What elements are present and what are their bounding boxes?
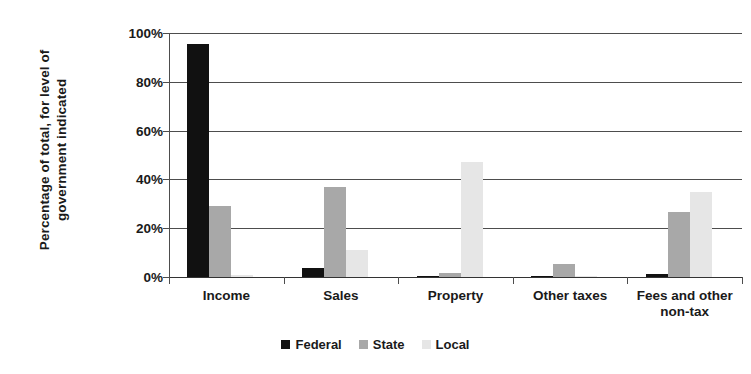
bar-state-0[interactable] [209,206,231,277]
bar-chart: Percentage of total, for level of govern… [0,0,751,374]
bar-state-4[interactable] [668,212,690,277]
legend-item-federal[interactable]: Federal [281,337,341,352]
y-axis-tick-mark [163,228,170,229]
bar-state-1[interactable] [324,187,346,277]
bar-local-0[interactable] [231,275,253,277]
bar-federal-1[interactable] [302,268,324,277]
y-axis-tick-label: 60% [105,123,163,138]
legend-label: Local [436,337,470,352]
legend-label: Federal [295,337,341,352]
y-axis-tick-label: 0% [105,270,163,285]
x-axis-category-4: Fees and othernon-tax [627,288,742,320]
plot-area [169,33,742,277]
x-axis-category-label: Income [203,288,250,303]
bar-federal-2[interactable] [417,276,439,277]
y-axis-title-line1: Percentage of total, for level of [37,50,52,251]
legend-item-local[interactable]: Local [422,337,470,352]
x-axis-category-2: Property [398,288,513,304]
x-axis-tick-mark [169,277,170,284]
bar-federal-3[interactable] [531,276,553,277]
x-axis-category-label-line2: non-tax [660,304,709,319]
bar-group [187,33,253,277]
y-axis-tick-mark [163,33,170,34]
x-axis-category-3: Other taxes [513,288,628,304]
legend-swatch-icon [422,340,431,349]
x-axis-tick-mark [398,277,399,284]
bar-state-2[interactable] [439,273,461,277]
y-axis-tick-mark [163,82,170,83]
x-axis-category-label: Other taxes [533,288,607,303]
chart-legend: FederalStateLocal [0,337,751,352]
bar-group [417,33,483,277]
x-axis-tick-mark [513,277,514,284]
bar-federal-0[interactable] [187,44,209,277]
bar-group [302,33,368,277]
legend-swatch-icon [359,340,368,349]
y-axis-tick-labels: 0%20%40%60%80%100% [103,0,163,374]
y-axis-tick-label: 80% [105,74,163,89]
legend-label: State [373,337,405,352]
x-axis-category-1: Sales [284,288,399,304]
x-axis-category-label: Fees and other [637,288,733,303]
legend-swatch-icon [281,340,290,349]
legend-item-state[interactable]: State [359,337,405,352]
y-axis-tick-label: 100% [105,26,163,41]
x-axis-tick-mark [284,277,285,284]
bar-local-3[interactable] [575,276,597,277]
x-axis-category-0: Income [169,288,284,304]
bar-group [646,33,712,277]
x-axis-category-label: Property [428,288,484,303]
bar-federal-4[interactable] [646,274,668,277]
x-axis-category-label: Sales [323,288,358,303]
y-axis-tick-label: 40% [105,172,163,187]
y-axis-title: Percentage of total, for level of govern… [0,0,108,300]
y-axis-title-line2: government indicated [54,50,71,251]
y-axis-tick-mark [163,131,170,132]
bar-local-1[interactable] [346,250,368,277]
y-axis-tick-label: 20% [105,221,163,236]
x-axis-tick-mark [627,277,628,284]
y-axis-tick-mark [163,179,170,180]
bar-group [531,33,597,277]
bar-local-2[interactable] [461,162,483,277]
bar-local-4[interactable] [690,192,712,277]
x-axis-line [169,277,743,278]
x-axis-tick-mark [742,277,743,284]
bar-state-3[interactable] [553,264,575,277]
